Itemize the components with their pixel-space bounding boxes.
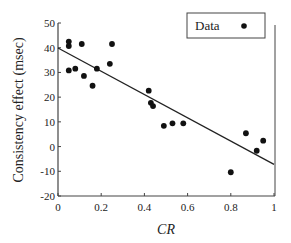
axes	[58, 23, 275, 196]
scatter-chart: 50403020100-10-20 00.20.40.60.81 Consist…	[0, 0, 291, 243]
data-point	[161, 123, 167, 129]
x-tick-label: 0.6	[181, 201, 195, 213]
data-point	[66, 43, 72, 49]
y-tick-label: -20	[40, 190, 55, 202]
data-point	[180, 120, 186, 126]
y-tick-label: 30	[44, 66, 56, 78]
data-point	[66, 68, 72, 74]
y-axis-title: Consistency effect (msec)	[11, 37, 27, 182]
data-point	[254, 148, 260, 154]
data-point	[90, 83, 96, 89]
data-point	[243, 130, 249, 136]
legend: Data	[187, 13, 265, 38]
regression-line	[58, 48, 274, 164]
data-points	[66, 39, 266, 176]
x-tick-label: 0	[55, 201, 61, 213]
data-point	[260, 138, 266, 144]
data-point	[79, 41, 85, 47]
data-point	[109, 41, 115, 47]
data-point	[107, 61, 113, 67]
x-axis-title: CR	[157, 222, 175, 237]
y-tick-label: 10	[44, 116, 56, 128]
data-point	[150, 103, 156, 109]
y-tick-label: 40	[44, 42, 56, 54]
x-tick-label: 0.8	[224, 201, 238, 213]
y-tick-label: -10	[40, 165, 55, 177]
data-point	[228, 169, 234, 175]
y-tick-label: 0	[50, 141, 56, 153]
data-point	[81, 73, 87, 79]
x-tick-label: 0.4	[138, 201, 152, 213]
y-tick-label: 50	[44, 17, 56, 29]
x-tick-label: 1	[271, 201, 277, 213]
data-point	[170, 120, 176, 126]
data-point	[94, 66, 100, 72]
x-tick-label: 0.2	[94, 201, 108, 213]
data-point	[72, 66, 78, 72]
y-tick-label: 20	[44, 91, 56, 103]
legend-label: Data	[195, 18, 220, 33]
data-point	[146, 88, 152, 94]
legend-marker-icon	[241, 23, 247, 29]
